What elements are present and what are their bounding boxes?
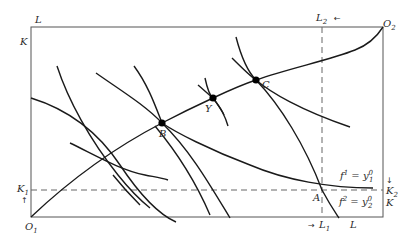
- isoquant-f1-e: [232, 58, 339, 218]
- point-c-marker: [252, 76, 259, 83]
- label-o1: O1: [25, 221, 38, 235]
- label-bottom-l: L: [349, 219, 357, 230]
- label-point-c: C: [262, 79, 270, 90]
- label-l1: L1: [318, 219, 330, 233]
- contract-curve: [31, 27, 383, 217]
- point-b-marker: [158, 119, 165, 126]
- label-f2-equation: f2 = y02: [338, 195, 373, 210]
- l2-arrow-icon: ←: [334, 14, 341, 23]
- k1-arrow-icon: ↑: [21, 196, 28, 205]
- label-point-a: A: [312, 192, 320, 203]
- label-top-left-l: L: [34, 14, 42, 25]
- label-l2: L2: [315, 12, 328, 26]
- label-left-k: K: [19, 36, 28, 47]
- isoquant-f2-f: [155, 126, 210, 215]
- edgeworth-box-diagram: L K L2 ← O2 K1 ↑ ↓ K2 K O1 → L1 L A B Y …: [0, 0, 416, 245]
- point-y-marker: [209, 94, 216, 101]
- k2-arrow-icon: ↓: [386, 176, 393, 185]
- edgeworth-box-frame: [31, 27, 383, 217]
- label-f1-equation: f1 = y01: [339, 169, 374, 184]
- label-right-k: K: [385, 197, 394, 208]
- label-point-y: Y: [205, 103, 213, 114]
- label-o2: O2: [383, 18, 396, 32]
- label-k1: K1: [16, 183, 29, 197]
- label-point-b: B: [158, 128, 166, 139]
- l1-arrow-icon: →: [308, 221, 315, 230]
- isoquant-f2-c: [134, 66, 373, 188]
